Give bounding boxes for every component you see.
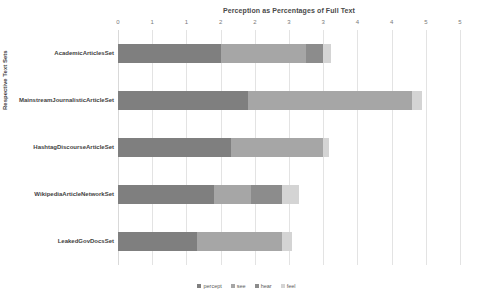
legend-swatch-icon (197, 284, 201, 288)
x-tick-label-10: 5 (458, 19, 461, 25)
x-axis-tick-labels: 01122334455 (118, 19, 460, 29)
bar-segment-hear (251, 185, 282, 204)
legend-swatch-icon (231, 284, 235, 288)
x-tick-label-7: 4 (356, 19, 359, 25)
bar-segment-percept (118, 232, 197, 251)
bar-segment-see (231, 138, 323, 157)
chart-legend: perceptseehearfeel (0, 283, 493, 289)
gridline-10 (460, 30, 461, 265)
legend-item-feel[interactable]: feel (281, 283, 296, 289)
x-tick-label-1: 1 (151, 19, 154, 25)
legend-item-hear[interactable]: hear (255, 283, 272, 289)
bar-segment-percept (118, 91, 248, 110)
bar-segment-feel (282, 232, 292, 251)
x-tick-label-3: 2 (219, 19, 222, 25)
category-label-3: WikipediaArticleNetworkSet (34, 191, 114, 197)
legend-label: percept (203, 283, 221, 289)
stacked-bar-chart: Perception as Percentages of Full Text 0… (0, 0, 493, 305)
x-tick-label-8: 4 (390, 19, 393, 25)
y-axis-title: Respective Text Sets (2, 50, 8, 110)
bar-segment-feel (323, 44, 331, 63)
legend-label: hear (261, 283, 272, 289)
bar-segment-see (214, 185, 252, 204)
legend-item-percept[interactable]: percept (197, 283, 221, 289)
bar-segment-feel (282, 185, 299, 204)
gridline-7 (357, 30, 358, 265)
bar-segment-see (221, 44, 307, 63)
x-tick-label-5: 3 (287, 19, 290, 25)
bar-segment-percept (118, 44, 221, 63)
bar-segment-see (248, 91, 412, 110)
category-label-4: LeakedGovDocsSet (58, 238, 114, 244)
category-label-1: MainstreamJournalisticArticleSet (19, 97, 114, 103)
chart-title: Perception as Percentages of Full Text (118, 7, 460, 14)
plot-area (118, 30, 460, 265)
x-tick-label-0: 0 (116, 19, 119, 25)
bar-segment-see (197, 232, 283, 251)
gridline-9 (426, 30, 427, 265)
legend-label: feel (287, 283, 296, 289)
x-tick-label-6: 3 (322, 19, 325, 25)
x-tick-label-4: 2 (253, 19, 256, 25)
x-tick-label-9: 5 (424, 19, 427, 25)
bar-segment-hear (306, 44, 323, 63)
y-axis-category-labels: AcademicArticlesSetMainstreamJournalisti… (0, 30, 114, 265)
category-label-0: AcademicArticlesSet (54, 50, 114, 56)
x-tick-label-2: 1 (185, 19, 188, 25)
bar-segment-feel (323, 138, 328, 157)
legend-swatch-icon (281, 284, 285, 288)
legend-swatch-icon (255, 284, 259, 288)
bar-segment-percept (118, 185, 214, 204)
bar-segment-feel (412, 91, 422, 110)
bar-segment-percept (118, 138, 231, 157)
legend-item-see[interactable]: see (231, 283, 246, 289)
legend-label: see (237, 283, 246, 289)
gridline-8 (392, 30, 393, 265)
category-label-2: HashtagDiscourseArticleSet (33, 144, 114, 150)
